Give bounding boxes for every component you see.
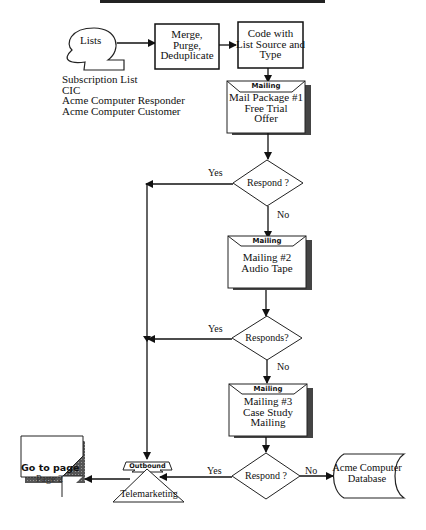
mailing1-text: Mail Package #1 Free Trial Offer: [225, 92, 307, 124]
lists-label: Lists: [80, 34, 101, 46]
source-item: Acme Computer Responder: [62, 95, 185, 106]
goto-page: Page 2: [36, 473, 63, 484]
mailing3-text: Mailing #3 Case Study Mailing: [229, 396, 307, 428]
goto-title: Go to page: [21, 462, 85, 473]
telemarketing-header: Outbound: [123, 462, 172, 471]
decision2-no: No: [277, 361, 289, 372]
code-line: Code with: [234, 28, 307, 39]
merge-text: Merge, Purge, Deduplicate: [155, 29, 219, 61]
mailing3-line: Mailing #3: [229, 396, 307, 407]
decision3-no: No: [305, 465, 317, 476]
code-line: Type: [234, 49, 307, 60]
mailing2-header: Mailing: [228, 237, 306, 245]
mailing3-header: Mailing: [229, 385, 307, 393]
decision1-yes: Yes: [208, 167, 223, 178]
database-line: Acme Computer: [332, 463, 402, 474]
merge-line: Deduplicate: [155, 50, 219, 61]
decision1-label: Respond ?: [233, 177, 303, 188]
decision3-yes: Yes: [207, 465, 222, 476]
decision2-label: Responds?: [232, 332, 302, 343]
decision2-yes: Yes: [208, 323, 223, 334]
mailing2-line: Mailing #2: [228, 252, 306, 263]
decision1-no: No: [277, 209, 289, 220]
decision3-label: Respond ?: [232, 470, 300, 481]
lists-sources: Subscription List CIC Acme Computer Resp…: [62, 74, 185, 116]
mailing2-line: Audio Tape: [228, 263, 306, 274]
merge-line: Merge,: [155, 29, 219, 40]
mailing1-line: Mail Package #1: [225, 92, 307, 103]
database-line: Database: [332, 474, 402, 485]
source-item: Acme Computer Customer: [62, 106, 185, 117]
top-rule: [100, 0, 325, 3]
mailing2-text: Mailing #2 Audio Tape: [228, 252, 306, 273]
telemarketing-label: Telemarketing: [114, 488, 184, 499]
database-text: Acme Computer Database: [332, 463, 402, 484]
mailing3-line: Mailing: [229, 417, 307, 428]
mailing1-line: Offer: [225, 113, 307, 124]
source-item: Subscription List: [62, 74, 185, 85]
code-text: Code with List Source and Type: [234, 28, 307, 60]
mailing1-header: Mailing: [227, 82, 305, 90]
